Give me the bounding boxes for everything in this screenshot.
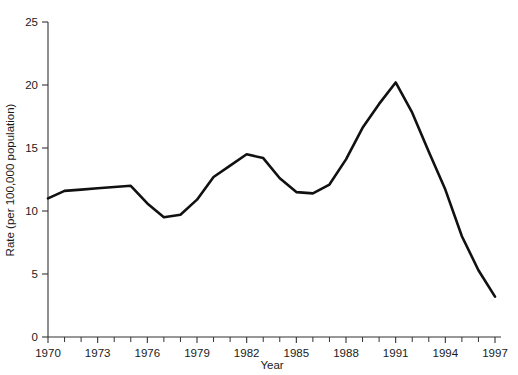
x-axis-tick-label: 1970 [35,347,61,359]
x-axis-title: Year [260,359,283,371]
x-axis-tick-label: 1982 [234,347,260,359]
y-axis-tick-label: 15 [25,142,38,154]
x-axis-tick-label: 1985 [284,347,310,359]
line-chart: 0510152025 19701973197619791982198519881… [0,0,518,375]
x-axis-tick-label: 1979 [184,347,210,359]
x-axis: 1970197319761979198219851988199119941997 [35,337,508,359]
x-axis-tick-label: 1988 [333,347,359,359]
y-axis-tick-label: 25 [25,16,38,28]
y-axis-tick-label: 10 [25,205,38,217]
y-axis: 0510152025 [25,16,48,343]
data-series-rate [48,82,495,296]
x-axis-tick-label: 1991 [383,347,409,359]
y-axis-tick-label: 5 [32,268,38,280]
x-axis-tick-label: 1976 [135,347,161,359]
x-axis-tick-label: 1997 [482,347,508,359]
y-axis-tick-label: 0 [32,331,38,343]
y-axis-tick-label: 20 [25,79,38,91]
y-axis-title: Rate (per 100,000 population) [4,103,16,256]
chart-container: 0510152025 19701973197619791982198519881… [0,0,518,375]
x-axis-tick-label: 1994 [433,347,459,359]
data-line-rate [48,82,495,296]
x-axis-tick-label: 1973 [85,347,111,359]
